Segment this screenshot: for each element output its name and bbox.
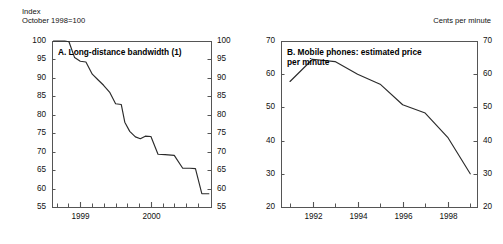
y-axis-label-left: 55 xyxy=(37,203,46,211)
panel-b-plot xyxy=(251,0,503,244)
panel-a-title: A. Long-distance bandwidth (1) xyxy=(58,47,182,57)
y-axis-label-right: 70 xyxy=(483,37,492,45)
panel-b-svg xyxy=(251,0,503,244)
y-axis-label-left: 60 xyxy=(37,185,46,193)
y-axis-label-left: 70 xyxy=(266,37,275,45)
y-axis-label-left: 30 xyxy=(266,170,275,178)
y-axis-label-left: 50 xyxy=(266,103,275,111)
y-axis-label-right: 90 xyxy=(217,74,226,82)
y-axis-label-right: 60 xyxy=(217,185,226,193)
y-axis-label-left: 70 xyxy=(37,148,46,156)
x-axis-label: 1996 xyxy=(384,213,424,221)
y-axis-label-right: 95 xyxy=(217,55,226,63)
y-axis-label-right: 20 xyxy=(483,203,492,211)
y-axis-label-right: 65 xyxy=(217,166,226,174)
chart-panel-b: Cents per minute B. Mobile phones: estim… xyxy=(251,0,503,244)
y-axis-label-right: 50 xyxy=(483,103,492,111)
y-axis-label-left: 95 xyxy=(37,55,46,63)
y-axis-label-left: 20 xyxy=(266,203,275,211)
y-axis-label-right: 60 xyxy=(483,70,492,78)
y-axis-label-left: 100 xyxy=(32,37,46,45)
y-axis-label-right: 100 xyxy=(217,37,231,45)
y-axis-label-right: 80 xyxy=(217,111,226,119)
x-axis-label: 1992 xyxy=(294,213,334,221)
y-axis-label-left: 85 xyxy=(37,92,46,100)
y-axis-label-left: 80 xyxy=(37,111,46,119)
y-axis-label-left: 75 xyxy=(37,129,46,137)
y-axis-label-left: 40 xyxy=(266,137,275,145)
y-axis-label-right: 85 xyxy=(217,92,226,100)
y-axis-label-left: 90 xyxy=(37,74,46,82)
x-axis-label: 1999 xyxy=(61,213,101,221)
y-axis-label-left: 65 xyxy=(37,166,46,174)
y-axis-label-right: 40 xyxy=(483,137,492,145)
y-axis-label-left: 60 xyxy=(266,70,275,78)
chart-panel-a: Index October 1998=100 A. Long-distance … xyxy=(0,0,251,244)
panel-b-title: B. Mobile phones: estimated price per mi… xyxy=(287,47,422,67)
x-axis-label: 1994 xyxy=(339,213,379,221)
x-axis-label: 1998 xyxy=(429,213,469,221)
y-axis-label-right: 55 xyxy=(217,203,226,211)
y-axis-label-right: 30 xyxy=(483,170,492,178)
y-axis-label-right: 75 xyxy=(217,129,226,137)
figure-container: Index October 1998=100 A. Long-distance … xyxy=(0,0,503,244)
y-axis-label-right: 70 xyxy=(217,148,226,156)
x-axis-label: 2000 xyxy=(132,213,172,221)
